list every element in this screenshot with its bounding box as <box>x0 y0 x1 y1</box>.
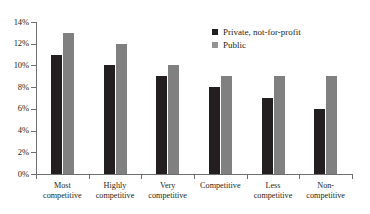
x-axis-tick <box>247 175 248 179</box>
y-axis-tick-label: 0% <box>0 170 29 179</box>
y-axis-tick-label: 10% <box>0 61 29 70</box>
plot-area <box>36 22 352 174</box>
legend-label: Private, not-for-profit <box>223 28 301 37</box>
x-axis-tick <box>89 175 90 179</box>
legend-item-private: Private, not-for-profit <box>212 26 301 38</box>
bar-public <box>116 44 127 174</box>
y-axis-tick-label: 2% <box>0 148 29 157</box>
x-axis-tick <box>141 175 142 179</box>
bar-private <box>156 76 167 174</box>
bar-public <box>326 76 337 174</box>
x-axis-tick <box>36 175 37 179</box>
y-axis-tick-label: 4% <box>0 126 29 135</box>
bar-public <box>168 65 179 174</box>
y-axis-tick-label: 14% <box>0 18 29 27</box>
legend-label: Public <box>223 41 246 50</box>
legend: Private, not-for-profit Public <box>212 26 301 52</box>
legend-swatch-icon <box>212 29 218 35</box>
x-axis-tick <box>352 175 353 179</box>
x-axis-category-label-line: competitive <box>136 191 199 201</box>
x-axis-category-label-line: Non- <box>294 181 357 191</box>
bar-public <box>221 76 232 174</box>
bar-private <box>209 87 220 174</box>
legend-item-public: Public <box>212 39 301 51</box>
x-axis-category-label: Non-competitive <box>294 181 357 201</box>
y-axis-tick-label: 6% <box>0 104 29 113</box>
bar-private <box>51 55 62 174</box>
y-axis-tick-label: 12% <box>0 39 29 48</box>
bar-private <box>104 65 115 174</box>
y-axis-tick-label: 8% <box>0 83 29 92</box>
legend-swatch-icon <box>212 42 218 48</box>
x-axis-tick <box>194 175 195 179</box>
bar-private <box>262 98 273 174</box>
bar-private <box>314 109 325 174</box>
bar-public <box>274 76 285 174</box>
x-axis-tick <box>299 175 300 179</box>
bar-public <box>63 33 74 174</box>
x-axis-category-label-line: competitive <box>294 191 357 201</box>
grouped-bar-chart: 0%2%4%6%8%10%12%14% MostcompetitiveHighl… <box>0 0 370 214</box>
